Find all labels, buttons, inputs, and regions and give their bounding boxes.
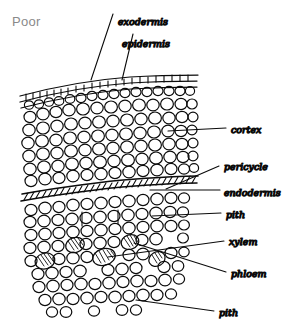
hatched-cell [119, 232, 141, 251]
leader-pericycle [166, 166, 219, 189]
endodermis-band [21, 176, 198, 201]
hatched-cell [91, 246, 118, 268]
leader-exodermis [91, 14, 113, 80]
label-exodermis: exodermis [118, 16, 168, 27]
label-epidermis: epidermis [122, 38, 170, 49]
label-pericycle: pericycle [224, 161, 268, 172]
label-pith-lower: pith [219, 307, 238, 318]
root-cross-section-diagram: exodermis epidermis cortex pericycle end… [0, 0, 305, 332]
hatched-cell [64, 235, 87, 255]
diagram-ink: exodermis epidermis cortex pericycle end… [20, 14, 281, 318]
label-xylem: xylem [229, 236, 257, 247]
label-cortex: cortex [231, 124, 262, 135]
leader-pith-lower [136, 300, 214, 311]
label-endodermis: endodermis [224, 187, 281, 198]
label-phloem: phloem [231, 268, 267, 279]
figure-page: Poor [0, 0, 305, 332]
label-pith-upper: pith [226, 209, 245, 220]
cortex-cells [22, 98, 199, 187]
